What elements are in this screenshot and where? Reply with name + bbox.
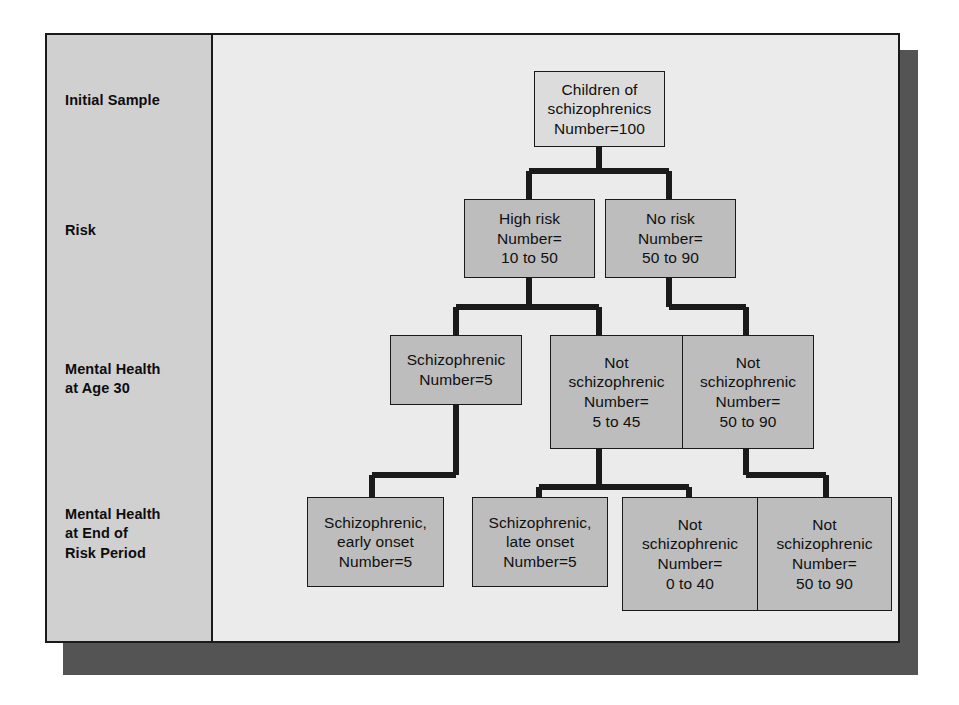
node-line: schizophrenic xyxy=(776,534,872,554)
node-end-not-schizophrenic-0to40[interactable]: Not schizophrenic Number= 0 to 40 xyxy=(623,498,757,610)
node-line: Number= xyxy=(792,554,857,574)
stage-label-line: Mental Health xyxy=(65,505,205,524)
node-line: Schizophrenic, xyxy=(488,513,591,533)
node-line: 0 to 40 xyxy=(666,574,714,594)
node-line: 50 to 90 xyxy=(796,574,853,594)
stage-label-line: at Age 30 xyxy=(65,379,205,398)
node-line: Number=100 xyxy=(554,119,645,139)
node-line: Schizophrenic, xyxy=(324,513,427,533)
node-line: Schizophrenic xyxy=(407,350,506,370)
node-line: High risk xyxy=(499,209,560,229)
node-line: Number=5 xyxy=(419,370,493,390)
node-end-schizophrenic-early[interactable]: Schizophrenic, early onset Number=5 xyxy=(307,497,444,587)
node-age30-schizophrenic[interactable]: Schizophrenic Number=5 xyxy=(390,335,522,405)
stage-label-line: Mental Health xyxy=(65,360,205,379)
node-age30-not-schizophrenic-50to90[interactable]: Not schizophrenic Number= 50 to 90 xyxy=(682,336,813,448)
stage-label-line: Risk xyxy=(65,221,205,240)
figure-frame: Initial Sample Risk Mental Health at Age… xyxy=(45,33,900,643)
figure-canvas: Initial Sample Risk Mental Health at Age… xyxy=(0,0,959,705)
node-line: 50 to 90 xyxy=(720,412,777,432)
node-no-risk[interactable]: No risk Number= 50 to 90 xyxy=(605,199,736,278)
node-line: schizophrenic xyxy=(700,372,796,392)
node-line: Not xyxy=(678,515,702,535)
node-line: early onset xyxy=(337,532,414,552)
stage-label-initial-sample: Initial Sample xyxy=(65,91,205,110)
node-pair-end-not-schizophrenic[interactable]: Not schizophrenic Number= 0 to 40 Not sc… xyxy=(622,497,892,611)
stage-label-line: Initial Sample xyxy=(65,91,205,110)
node-end-not-schizophrenic-50to90[interactable]: Not schizophrenic Number= 50 to 90 xyxy=(757,498,891,610)
node-line: Number= xyxy=(584,392,649,412)
stage-label-column: Initial Sample Risk Mental Health at Age… xyxy=(47,35,213,641)
node-line: Number=5 xyxy=(503,552,577,572)
node-line: schizophrenic xyxy=(642,534,738,554)
node-end-schizophrenic-late[interactable]: Schizophrenic, late onset Number=5 xyxy=(472,497,608,587)
node-root[interactable]: Children of schizophrenics Number=100 xyxy=(534,71,665,147)
stage-label-line: at End of xyxy=(65,524,205,543)
stage-label-mental-health-age-30: Mental Health at Age 30 xyxy=(65,360,205,399)
node-line: late onset xyxy=(506,532,574,552)
node-line: Not xyxy=(604,353,628,373)
stage-label-risk: Risk xyxy=(65,221,205,240)
stage-label-line: Risk Period xyxy=(65,544,205,563)
node-line: Number= xyxy=(716,392,781,412)
tree-diagram-area: Children of schizophrenics Number=100 Hi… xyxy=(213,35,898,641)
node-line: Number= xyxy=(497,229,562,249)
node-age30-not-schizophrenic-5to45[interactable]: Not schizophrenic Number= 5 to 45 xyxy=(551,336,682,448)
node-line: schizophrenic xyxy=(568,372,664,392)
node-line: No risk xyxy=(646,209,695,229)
node-line: schizophrenics xyxy=(548,99,652,119)
node-line: Number= xyxy=(638,229,703,249)
node-line: 50 to 90 xyxy=(642,248,699,268)
node-pair-age30-not-schizophrenic[interactable]: Not schizophrenic Number= 5 to 45 Not sc… xyxy=(550,335,814,449)
node-line: 5 to 45 xyxy=(592,412,640,432)
stage-label-mental-health-end-risk-period: Mental Health at End of Risk Period xyxy=(65,505,205,563)
node-line: 10 to 50 xyxy=(501,248,558,268)
node-line: Not xyxy=(736,353,760,373)
node-line: Children of xyxy=(561,80,637,100)
node-line: Not xyxy=(812,515,836,535)
node-high-risk[interactable]: High risk Number= 10 to 50 xyxy=(464,199,595,278)
node-line: Number=5 xyxy=(339,552,413,572)
node-line: Number= xyxy=(658,554,723,574)
